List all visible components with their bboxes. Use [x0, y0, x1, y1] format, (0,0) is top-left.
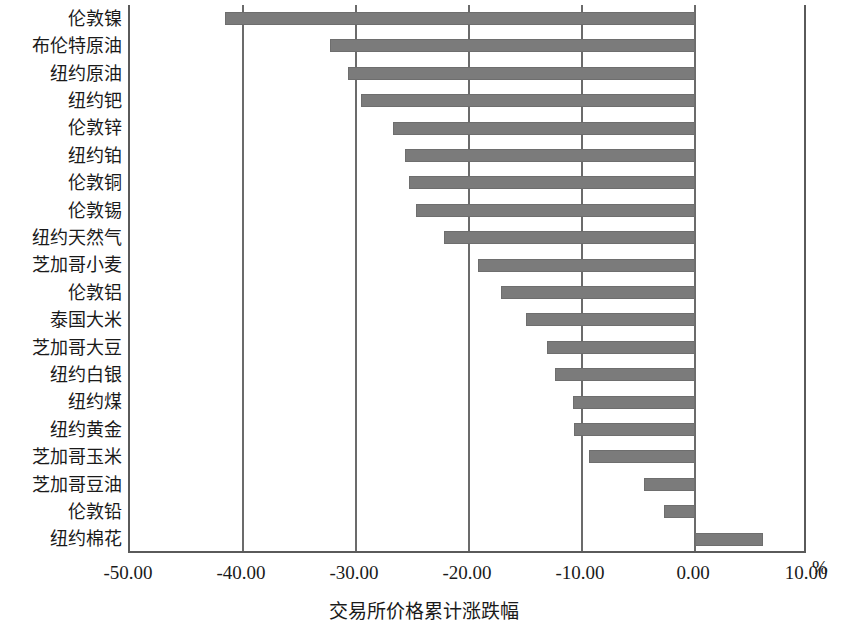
- category-label: 芝加哥玉米: [0, 448, 122, 466]
- bar-芝加哥玉米[interactable]: [589, 450, 695, 463]
- bar-纽约棉花[interactable]: [695, 533, 763, 546]
- bar-row: [130, 279, 804, 306]
- bar-row: [130, 60, 804, 87]
- bar-row: [130, 115, 804, 142]
- bar-row: [130, 471, 804, 498]
- x-tick-label: -40.00: [186, 562, 296, 584]
- x-tick-label: -30.00: [299, 562, 409, 584]
- category-label: 纽约原油: [0, 65, 122, 83]
- bar-纽约白银[interactable]: [555, 368, 695, 381]
- bar-row: [130, 87, 804, 114]
- category-label: 布伦特原油: [0, 37, 122, 55]
- bar-纽约黄金[interactable]: [574, 423, 695, 436]
- bar-row: [130, 389, 804, 416]
- category-label: 芝加哥豆油: [0, 476, 122, 494]
- category-label: 伦敦镍: [0, 10, 122, 28]
- bar-纽约铂[interactable]: [405, 149, 695, 162]
- x-tick-label: -10.00: [525, 562, 635, 584]
- category-label: 纽约棉花: [0, 530, 122, 548]
- bar-row: [130, 443, 804, 470]
- bar-伦敦铅[interactable]: [664, 505, 695, 518]
- x-axis-title: 交易所价格累计涨跌幅: [0, 600, 847, 622]
- bar-伦敦铜[interactable]: [409, 176, 695, 189]
- x-tick-label: 10.00: [751, 562, 847, 584]
- category-label: 泰国大米: [0, 311, 122, 329]
- category-label: 纽约天然气: [0, 229, 122, 247]
- bar-纽约天然气[interactable]: [444, 231, 695, 244]
- axis-unit-label: %: [812, 558, 828, 578]
- bar-伦敦镍[interactable]: [225, 12, 695, 25]
- category-label: 纽约煤: [0, 393, 122, 411]
- plot-area: [128, 5, 806, 553]
- category-label-column: 伦敦镍布伦特原油纽约原油纽约钯伦敦锌纽约铂伦敦铜伦敦锡纽约天然气芝加哥小麦伦敦铝…: [0, 5, 122, 553]
- bar-纽约钯[interactable]: [361, 94, 695, 107]
- category-label: 伦敦锌: [0, 119, 122, 137]
- bar-芝加哥豆油[interactable]: [644, 478, 695, 491]
- x-tick-label: -20.00: [412, 562, 522, 584]
- bar-row: [130, 5, 804, 32]
- bar-row: [130, 142, 804, 169]
- bar-纽约原油[interactable]: [348, 67, 695, 80]
- bar-row: [130, 306, 804, 333]
- bar-布伦特原油[interactable]: [330, 39, 695, 52]
- category-label: 纽约白银: [0, 366, 122, 384]
- bar-伦敦铝[interactable]: [501, 286, 695, 299]
- bar-伦敦锡[interactable]: [416, 204, 695, 217]
- category-label: 芝加哥小麦: [0, 256, 122, 274]
- bar-纽约煤[interactable]: [573, 396, 695, 409]
- bar-row: [130, 197, 804, 224]
- category-label: 伦敦铝: [0, 284, 122, 302]
- category-label: 纽约钯: [0, 92, 122, 110]
- bar-row: [130, 32, 804, 59]
- bar-芝加哥小麦[interactable]: [478, 259, 695, 272]
- category-label: 纽约铂: [0, 147, 122, 165]
- bar-row: [130, 416, 804, 443]
- bar-伦敦锌[interactable]: [393, 122, 695, 135]
- category-label: 伦敦铅: [0, 503, 122, 521]
- bar-泰国大米[interactable]: [526, 313, 696, 326]
- x-tick-label: 0.00: [638, 562, 748, 584]
- category-label: 芝加哥大豆: [0, 339, 122, 357]
- horizontal-bar-chart: 伦敦镍布伦特原油纽约原油纽约钯伦敦锌纽约铂伦敦铜伦敦锡纽约天然气芝加哥小麦伦敦铝…: [0, 0, 847, 635]
- bar-row: [130, 361, 804, 388]
- x-tick-label: -50.00: [73, 562, 183, 584]
- bar-row: [130, 334, 804, 361]
- bar-芝加哥大豆[interactable]: [547, 341, 695, 354]
- category-label: 伦敦铜: [0, 174, 122, 192]
- bar-row: [130, 498, 804, 525]
- bar-row: [130, 224, 804, 251]
- category-label: 纽约黄金: [0, 421, 122, 439]
- bar-row: [130, 252, 804, 279]
- bar-row: [130, 526, 804, 553]
- bar-row: [130, 169, 804, 196]
- category-label: 伦敦锡: [0, 202, 122, 220]
